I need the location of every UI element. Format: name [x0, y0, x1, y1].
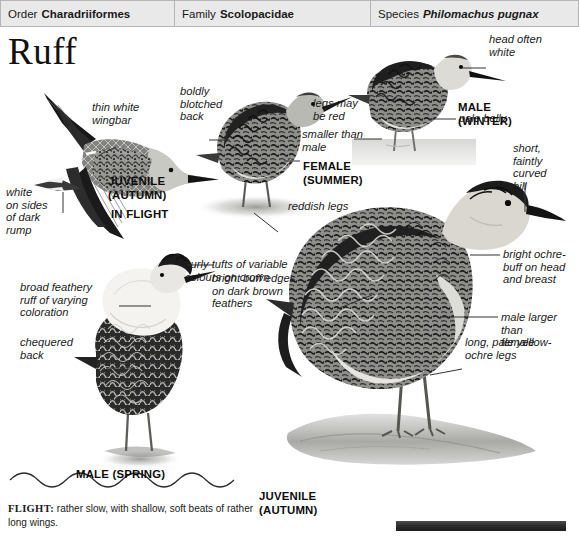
header-cell-family: Family Scolopacidae [174, 0, 371, 27]
header-value-species: Philomachus pugnax [423, 8, 539, 20]
header-cell-species: Species Philomachus pugnax [370, 0, 579, 27]
bottom-color-bar [396, 521, 566, 531]
header-value-family: Scolopacidae [220, 8, 294, 20]
label-bright-ochre-buff: bright ochre- buff on head and breast [503, 248, 566, 286]
header-key-order: Order [8, 8, 37, 20]
header-key-family: Family [182, 8, 216, 20]
label-reddish-legs: reddish legs [288, 200, 348, 213]
label-bright-buff-edges: bright buff edges on dark brown feathers [212, 272, 295, 310]
bird-male-spring [74, 254, 216, 468]
label-white-sides-dark-rump: white on sides of dark rump [6, 186, 48, 236]
header-value-order: Charadriiformes [41, 8, 130, 20]
label-boldly-blotched-back: boldly blotched back [180, 85, 222, 123]
label-thin-white-wingbar: thin white wingbar [92, 101, 139, 126]
label-legs-may-be-red: legs may be red [313, 97, 358, 122]
header-key-species: Species [378, 8, 419, 20]
caption-female-summer: FEMALE (SUMMER) [303, 160, 363, 187]
label-smaller-than-male: smaller than male [302, 128, 363, 153]
caption-male-spring: MALE (SPRING) [76, 468, 165, 482]
label-chequered-back: chequered back [20, 336, 73, 361]
caption-juvenile-autumn-flight: JUVENILE (AUTUMN) [108, 175, 167, 202]
flight-note-label: FLIGHT: [8, 503, 54, 514]
label-short-faintly-curved-bill: short, faintly curved bill [513, 142, 547, 192]
caption-male-winter: MALE (WINTER) [458, 101, 512, 128]
taxonomy-header: Order Charadriiformes Family Scolopacida… [0, 0, 580, 27]
label-broad-feathery-ruff: broad feathery ruff of varying coloratio… [20, 281, 92, 319]
caption-juvenile-autumn: JUVENILE (AUTUMN) [259, 490, 318, 517]
label-long-pale-yellow-ochre-legs: long, pale yellow- ochre legs [465, 336, 551, 361]
label-head-often-white: head often white [489, 33, 542, 58]
header-cell-order: Order Charadriiformes [0, 0, 175, 27]
flight-note: FLIGHT: rather slow, with shallow, soft … [8, 502, 258, 529]
caption-in-flight: IN FLIGHT [111, 208, 168, 222]
